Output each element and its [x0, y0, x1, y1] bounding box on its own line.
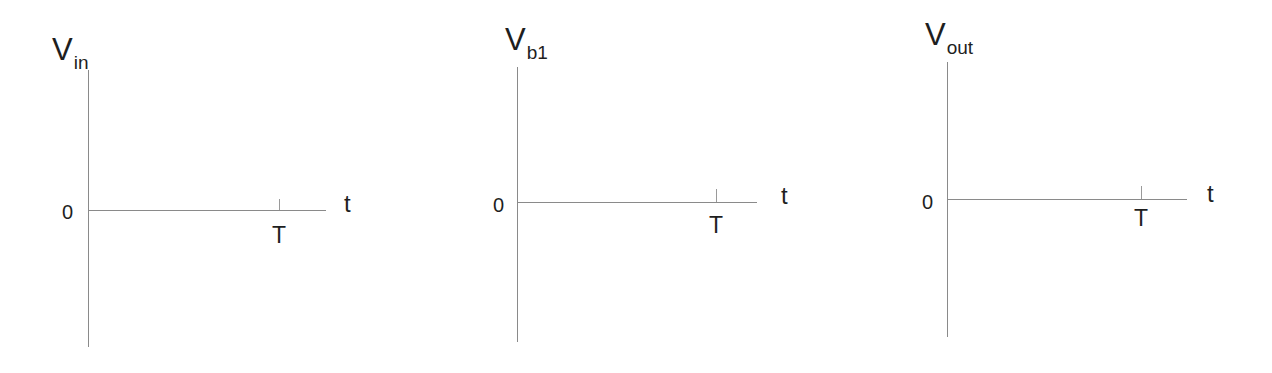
x-axis-tick-T — [1141, 186, 1142, 199]
y-axis-label-subscript: in — [74, 52, 89, 73]
y-axis-line — [517, 67, 518, 342]
x-axis-label: t — [344, 192, 351, 216]
y-axis-label-subscript: b1 — [527, 42, 548, 63]
origin-label: 0 — [62, 202, 73, 222]
x-axis-line — [947, 199, 1187, 200]
origin-label: 0 — [922, 192, 933, 212]
origin-label: 0 — [493, 195, 504, 215]
y-axis-label-vb1: Vb1 — [505, 24, 548, 55]
tick-label-T: T — [272, 224, 286, 247]
y-axis-label-vin: Vin — [52, 34, 88, 65]
y-axis-label-main: V — [925, 17, 946, 52]
y-axis-label-main: V — [505, 22, 526, 57]
x-axis-tick-T — [716, 189, 717, 202]
y-axis-label-vout: Vout — [925, 19, 973, 50]
x-axis-label: t — [1207, 182, 1214, 206]
y-axis-label-subscript: out — [947, 37, 973, 58]
x-axis-line — [88, 210, 326, 211]
x-axis-line — [517, 202, 757, 203]
y-axis-label-main: V — [52, 32, 73, 67]
y-axis-line — [88, 70, 89, 347]
tick-label-T: T — [1134, 207, 1148, 230]
x-axis-label: t — [781, 184, 788, 208]
x-axis-tick-T — [279, 199, 280, 210]
tick-label-T: T — [709, 214, 723, 237]
